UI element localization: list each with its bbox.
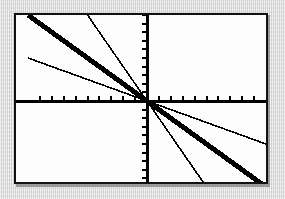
plot-area [16,15,266,182]
calculator-screen [14,13,268,184]
graph-plot [16,15,266,182]
